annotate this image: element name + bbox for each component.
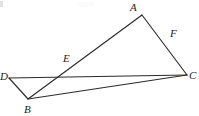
point-label-D: D (0, 70, 8, 82)
segment-AB (28, 15, 142, 99)
point-label-B: B (24, 103, 31, 115)
segment-BC (28, 75, 187, 99)
point-label-F: F (169, 27, 177, 39)
segment-DC (9, 75, 187, 78)
point-label-E: E (62, 52, 70, 64)
segment-AC (142, 15, 187, 75)
geometry-canvas: A B C D E F (0, 0, 199, 116)
segment-DB (9, 78, 28, 99)
point-label-A: A (129, 1, 137, 13)
segment-group (9, 15, 187, 99)
geometry-figure: A B C D E F (0, 0, 199, 116)
point-label-C: C (189, 69, 197, 81)
